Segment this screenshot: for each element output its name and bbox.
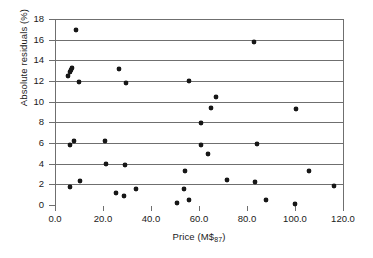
x-tick-label-0: 0.0 <box>33 213 77 224</box>
data-point <box>214 95 218 99</box>
x-axis-title: Price (M$87) <box>55 231 343 243</box>
y-tick-label-12: 12 <box>33 76 44 86</box>
data-point <box>255 142 259 146</box>
y-tick-label-14: 14 <box>33 55 44 65</box>
data-point <box>307 169 311 173</box>
x-tick-mark-100 <box>295 206 296 211</box>
data-point <box>332 184 336 188</box>
y-tick-label-0: 0 <box>39 200 44 210</box>
data-point <box>114 191 118 195</box>
data-point <box>123 163 127 167</box>
y-tick-label-4: 4 <box>39 159 44 169</box>
data-point <box>124 81 128 85</box>
data-point <box>199 121 203 125</box>
x-tick-label-20: 20.0 <box>81 213 125 224</box>
scatter-chart-figure: Absolute residuals (%) Price (M$87) 0246… <box>0 0 373 258</box>
y-tick-label-18: 18 <box>33 14 44 24</box>
data-point <box>74 28 78 32</box>
x-tick-label-100: 100.0 <box>273 213 317 224</box>
x-tick-label-60: 60.0 <box>177 213 221 224</box>
gridline-y-18 <box>55 19 343 20</box>
x-tick-label-80: 80.0 <box>225 213 269 224</box>
y-axis-title: Absolute residuals (%) <box>18 0 29 153</box>
data-point <box>182 187 186 191</box>
data-point <box>104 162 108 166</box>
data-point <box>77 80 81 84</box>
gridline-y-16 <box>55 40 343 41</box>
data-point <box>72 139 76 143</box>
data-point <box>264 198 268 202</box>
gridline-y-14 <box>55 60 343 61</box>
data-point <box>183 169 187 173</box>
x-tick-label-40: 40.0 <box>129 213 173 224</box>
x-tick-mark-120 <box>343 206 344 211</box>
gridline-y-10 <box>55 102 343 103</box>
data-point <box>187 79 191 83</box>
x-axis-title-base: Price (M$ <box>173 231 215 242</box>
x-axis-title-tail: ) <box>222 231 225 242</box>
x-tick-mark-40 <box>151 206 152 211</box>
y-tick-label-2: 2 <box>39 179 44 189</box>
data-point <box>68 185 72 189</box>
plot-area <box>55 19 343 205</box>
data-point <box>134 187 138 191</box>
x-tick-label-120: 120.0 <box>321 213 365 224</box>
data-point <box>209 106 213 110</box>
data-point <box>225 178 229 182</box>
data-point <box>70 66 74 70</box>
data-point <box>117 67 121 71</box>
data-point <box>293 202 297 206</box>
y-tick-label-8: 8 <box>39 117 44 127</box>
data-point <box>252 40 256 44</box>
x-tick-mark-0 <box>55 206 56 211</box>
x-tick-mark-80 <box>247 206 248 211</box>
data-point <box>78 179 82 183</box>
x-axis-title-subscript: 87 <box>214 236 222 243</box>
data-point <box>66 74 70 78</box>
data-point <box>68 143 72 147</box>
data-point <box>122 194 126 198</box>
gridline-y-4 <box>55 164 343 165</box>
data-point <box>199 143 203 147</box>
x-tick-mark-60 <box>199 206 200 211</box>
y-tick-label-10: 10 <box>33 97 44 107</box>
right-axis-line <box>343 19 344 206</box>
gridline-y-12 <box>55 81 343 82</box>
data-point <box>294 107 298 111</box>
data-point <box>206 152 210 156</box>
data-point <box>187 198 191 202</box>
x-tick-mark-20 <box>103 206 104 211</box>
y-tick-label-6: 6 <box>39 138 44 148</box>
data-point <box>175 201 179 205</box>
y-tick-label-16: 16 <box>33 35 44 45</box>
gridline-y-2 <box>55 184 343 185</box>
